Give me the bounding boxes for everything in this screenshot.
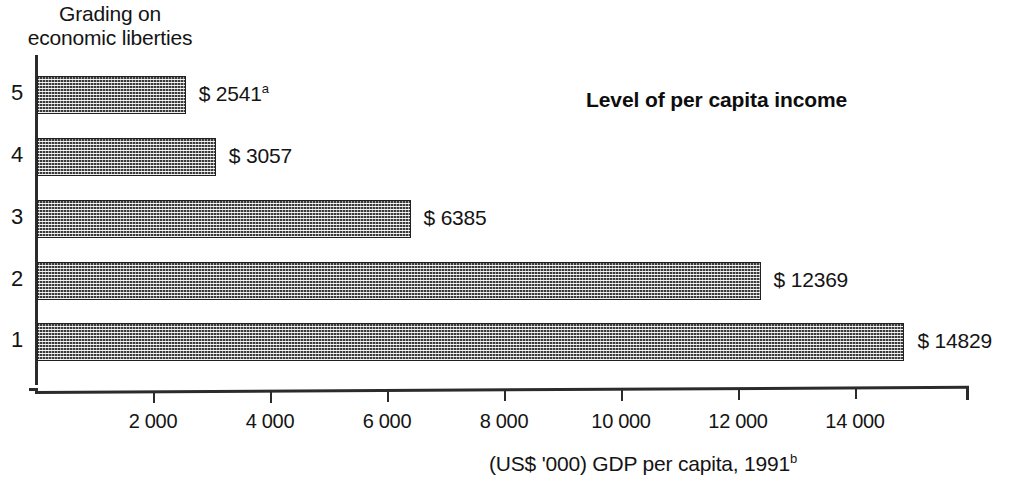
y-tick-label-4: 4	[6, 142, 28, 168]
x-axis-title-superscript: b	[790, 451, 797, 466]
y-axis-title: Grading on economic liberties	[4, 2, 216, 50]
bar-grade-5[interactable]	[37, 76, 186, 114]
x-axis-title-text: (US$ '000) GDP per capita, 1991	[489, 452, 790, 475]
x-tick-mark-8000	[504, 389, 506, 401]
x-tick-label-4000: 4 000	[246, 410, 295, 433]
bar-value-text: $ 12369	[774, 268, 849, 291]
bar-value-label-5: $ 2541a	[199, 82, 269, 106]
bar-grade-4[interactable]	[37, 138, 216, 176]
bar-grade-1[interactable]	[37, 323, 904, 361]
x-tick-label-8000: 8 000	[480, 410, 529, 433]
bar-chart: Grading on economic liberties Level of p…	[0, 0, 1024, 488]
y-tick-label-3: 3	[6, 204, 28, 230]
bar-value-superscript: a	[262, 81, 269, 96]
y-tick-label-1: 1	[6, 327, 28, 353]
chart-title: Level of per capita income	[586, 88, 847, 112]
bar-grade-3[interactable]	[37, 200, 411, 238]
x-axis-line	[35, 386, 969, 394]
bar-value-text: $ 14829	[917, 329, 992, 352]
x-tick-mark-10000	[621, 389, 623, 401]
x-tick-mark-12000	[738, 388, 740, 400]
x-tick-label-6000: 6 000	[363, 410, 412, 433]
bar-value-label-2: $ 12369	[774, 268, 849, 292]
y-tick-label-2: 2	[6, 266, 28, 292]
y-tick-label-5: 5	[6, 80, 28, 106]
x-tick-label-14000: 14 000	[825, 410, 884, 433]
x-axis-end-tick	[966, 386, 969, 400]
x-axis-title: (US$ '000) GDP per capita, 1991b	[489, 452, 797, 476]
bar-value-text: $ 3057	[229, 144, 292, 167]
bar-value-text: $ 2541	[199, 82, 262, 105]
x-tick-label-12000: 12 000	[708, 410, 767, 433]
x-tick-mark-4000	[270, 391, 272, 403]
bar-value-label-1: $ 14829	[917, 329, 992, 353]
bar-value-label-4: $ 3057	[229, 144, 292, 168]
bar-value-text: $ 6385	[424, 206, 487, 229]
x-tick-mark-2000	[153, 391, 155, 403]
bar-value-label-3: $ 6385	[424, 206, 487, 230]
bar-grade-2[interactable]	[37, 262, 761, 300]
x-tick-label-10000: 10 000	[591, 410, 650, 433]
x-tick-mark-14000	[855, 387, 857, 399]
x-tick-mark-6000	[387, 390, 389, 402]
x-tick-label-2000: 2 000	[129, 410, 178, 433]
